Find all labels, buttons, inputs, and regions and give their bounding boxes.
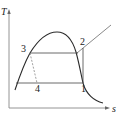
axes bbox=[7, 9, 110, 110]
s-axis-arrow-icon bbox=[105, 106, 110, 109]
t-axis-arrow-icon bbox=[7, 9, 10, 14]
t-axis-label: T bbox=[1, 6, 8, 17]
s-axis-label: s bbox=[112, 103, 116, 114]
point-2-label: 2 bbox=[80, 36, 85, 47]
ts-diagram: T s 3 2 4 1 bbox=[0, 0, 119, 115]
point-3-label: 3 bbox=[21, 43, 26, 54]
process-3-4-line bbox=[30, 53, 37, 83]
point-1-label: 1 bbox=[81, 83, 86, 94]
point-4-label: 4 bbox=[35, 83, 40, 94]
